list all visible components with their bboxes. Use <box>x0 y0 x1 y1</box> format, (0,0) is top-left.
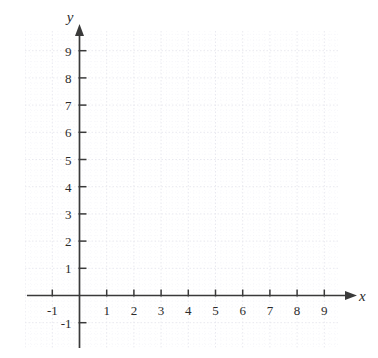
y-axis-tick-labels: -1123456789 <box>61 44 72 331</box>
x-tick-label: 2 <box>131 303 138 318</box>
x-axis <box>27 291 357 300</box>
x-tick-label: 5 <box>212 303 219 318</box>
x-tick-label: 9 <box>321 303 328 318</box>
coordinate-grid-figure: -1123456789 -1123456789 x y <box>0 0 378 358</box>
y-axis-label: y <box>65 9 74 25</box>
minor-gridlines <box>25 31 338 348</box>
y-tick-label: 8 <box>65 71 72 86</box>
y-tick-label: 2 <box>65 234 72 249</box>
y-tick-label: 3 <box>65 207 72 222</box>
y-tick-label: -1 <box>61 316 72 331</box>
major-gridlines <box>25 31 338 350</box>
y-axis-arrowhead <box>75 24 84 36</box>
y-tick-label: 6 <box>65 125 72 140</box>
y-tick-label: 7 <box>65 98 72 113</box>
x-axis-label: x <box>358 288 366 304</box>
x-tick-label: 3 <box>158 303 165 318</box>
coordinate-plane-svg: -1123456789 -1123456789 x y <box>0 0 378 358</box>
y-tick-label: 4 <box>65 180 72 195</box>
y-tick-label: 9 <box>65 44 72 59</box>
y-tick-label: 5 <box>65 153 72 168</box>
x-tick-label: 8 <box>294 303 301 318</box>
x-axis-tick-labels: -1123456789 <box>47 303 328 318</box>
y-tick-label: 1 <box>65 261 72 276</box>
x-axis-arrowhead <box>345 291 357 300</box>
x-tick-label: 4 <box>185 303 192 318</box>
x-tick-label: 1 <box>103 303 110 318</box>
x-tick-label: 6 <box>239 303 246 318</box>
x-tick-label: -1 <box>47 303 58 318</box>
x-tick-label: 7 <box>267 303 274 318</box>
